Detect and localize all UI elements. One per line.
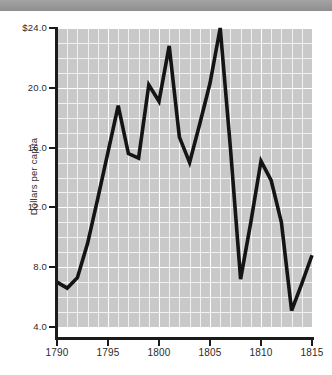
- x-tick-mark: [209, 339, 211, 346]
- y-tick-label: 8.0: [33, 261, 47, 272]
- y-axis-title: Dollars per capita: [28, 106, 39, 246]
- title-bar-fill: [0, 0, 332, 11]
- y-axis-labels: 4.08.012.016.020.0$24.0: [0, 11, 47, 375]
- x-tick-label: 1810: [249, 347, 272, 358]
- x-axis-line: [55, 337, 314, 340]
- y-tick-label: 4.0: [33, 321, 47, 332]
- plot-area: [57, 28, 312, 327]
- chart-figure: 4.08.012.016.020.0$24.0 1790179518001805…: [0, 11, 332, 375]
- x-tick-mark: [56, 339, 58, 346]
- x-tick-label: 1800: [147, 347, 170, 358]
- y-tick-label: $24.0: [22, 22, 47, 33]
- y-axis-title-wrap: Dollars per capita: [0, 11, 1, 375]
- x-tick-mark: [158, 339, 160, 346]
- line-series: [57, 28, 312, 327]
- y-tick-mark: [49, 266, 56, 268]
- x-tick-label: 1795: [96, 347, 119, 358]
- x-tick-mark: [107, 339, 109, 346]
- x-tick-label: 1805: [198, 347, 221, 358]
- y-tick-mark: [49, 87, 56, 89]
- window-title-bar: [0, 0, 332, 11]
- y-tick-mark: [49, 27, 56, 29]
- y-tick-mark: [49, 326, 56, 328]
- y-tick-mark: [49, 206, 56, 208]
- x-tick-label: 1815: [300, 347, 323, 358]
- x-tick-mark: [260, 339, 262, 346]
- y-tick-mark: [49, 147, 56, 149]
- x-tick-mark: [311, 339, 313, 346]
- y-axis-line: [55, 27, 58, 339]
- x-tick-label: 1790: [45, 347, 68, 358]
- y-tick-label: 20.0: [28, 82, 47, 93]
